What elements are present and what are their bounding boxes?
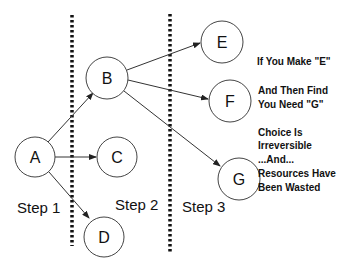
node-a: A xyxy=(15,137,55,177)
node-f: F xyxy=(209,80,251,122)
node-a-label: A xyxy=(30,149,41,166)
node-c: C xyxy=(97,137,137,177)
note-line-7: Resources Have xyxy=(258,168,336,179)
note-line-8: Been Wasted xyxy=(258,182,320,193)
note-line-2: And Then Find xyxy=(258,85,328,96)
step-1-label: Step 1 xyxy=(17,199,60,216)
node-c-label: C xyxy=(111,149,123,166)
step-3-label: Step 3 xyxy=(182,198,225,215)
step-2-label: Step 2 xyxy=(115,196,158,213)
node-b-label: B xyxy=(102,70,113,87)
note-line-1: If You Make "E" xyxy=(257,56,331,67)
node-b: B xyxy=(86,57,128,99)
node-d-label: D xyxy=(98,229,110,246)
decision-diagram: A B C D E F G Step 1 Step 2 Step 3 If Yo… xyxy=(0,0,357,269)
note-line-4: Choice Is xyxy=(258,127,303,138)
edge-b-f xyxy=(128,80,208,99)
node-d: D xyxy=(84,217,124,257)
node-e: E xyxy=(201,21,243,63)
node-g-label: G xyxy=(233,171,245,188)
node-e-label: E xyxy=(217,34,228,51)
node-f-label: F xyxy=(225,93,235,110)
edge-b-e xyxy=(127,43,200,70)
note-line-3: You Need "G" xyxy=(258,99,324,110)
node-g: G xyxy=(218,158,260,200)
note-line-5: Irreversible xyxy=(258,140,312,151)
note-line-6: ...And... xyxy=(258,154,294,165)
edge-b-g xyxy=(124,91,220,166)
